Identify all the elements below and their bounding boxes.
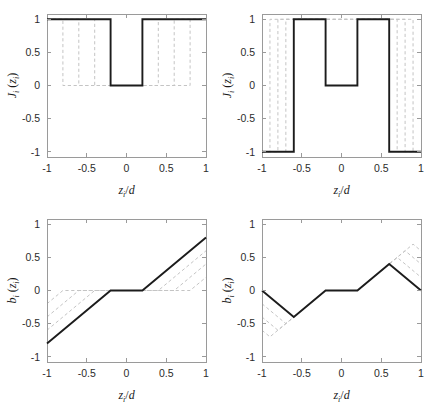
y-tick-label: -1 [31,351,40,363]
chart-panel-bottom-left: -1-0.500.51-1-0.500.51zi/dbi (zi) [2,205,215,409]
y-tick-label: 0.5 [240,251,255,263]
y-tick-label: 1 [249,218,255,230]
x-tick-label: 1 [203,162,209,174]
main-series [47,19,206,85]
axis-ticks: -1-0.500.51-1-0.500.51 [22,13,209,174]
y-tick-label: 1 [34,13,40,25]
chart-panel-top-left: -1-0.500.51-1-0.500.51zi/dJi (zi) [2,0,215,204]
x-tick-label: 1 [203,367,209,379]
axis-ticks: -1-0.500.51-1-0.500.51 [22,218,209,379]
x-tick-label: 0 [124,162,130,174]
x-tick-label: -0.5 [78,367,96,379]
main-curve [47,19,206,85]
axis-ticks: -1-0.500.51-1-0.500.51 [237,13,424,174]
y-axis-title: Ji (zi) [5,73,21,98]
x-tick-label: 1 [418,367,424,379]
main-series [262,264,421,317]
figure-canvas: -1-0.500.51-1-0.500.51zi/dJi (zi)-1-0.50… [0,0,430,409]
y-axis-title: Ji (zi) [220,73,236,98]
x-tick-label: 1 [418,162,424,174]
x-tick-label: 0.5 [374,367,389,379]
y-tick-label: -0.5 [237,317,255,329]
y-tick-label: -1 [246,351,255,363]
y-tick-label: 0.5 [25,46,40,58]
y-tick-label: -0.5 [237,112,255,124]
ghost-series [47,19,206,85]
ghost-curves [47,19,206,85]
x-tick-label: 0.5 [374,162,389,174]
x-tick-label: 0 [339,162,345,174]
ghost-series [47,19,206,85]
axis-ticks: -1-0.500.51-1-0.500.51 [237,218,424,379]
y-tick-label: -0.5 [22,112,40,124]
x-tick-label: 0.5 [159,367,174,379]
chart-panel-bottom-right: -1-0.500.51-1-0.500.51zi/dbi (zi) [217,205,430,409]
y-tick-label: 0 [249,79,255,91]
ghost-series [47,19,206,85]
x-tick-label: -0.5 [78,162,96,174]
main-curve [262,264,421,317]
y-tick-label: 0 [34,284,40,296]
y-tick-label: 0 [34,79,40,91]
x-tick-label: -1 [42,367,51,379]
x-tick-label: -1 [42,162,51,174]
x-tick-label: -0.5 [293,367,311,379]
x-axis-title: zi/d [332,388,350,404]
y-tick-label: -1 [246,146,255,158]
x-tick-label: -0.5 [293,162,311,174]
y-tick-label: 1 [249,13,255,25]
y-tick-label: 0.5 [240,46,255,58]
x-tick-label: 0 [124,367,130,379]
chart-panel-top-right: -1-0.500.51-1-0.500.51zi/dJi (zi) [217,0,430,204]
y-tick-label: 0 [249,284,255,296]
x-axis-title: zi/d [117,388,135,404]
y-tick-label: -0.5 [22,317,40,329]
y-tick-label: 0.5 [25,251,40,263]
x-tick-label: -1 [257,367,266,379]
y-tick-label: -1 [31,146,40,158]
x-tick-label: 0.5 [159,162,174,174]
y-axis-title: bi (zi) [220,277,236,303]
x-axis-title: zi/d [332,183,350,199]
x-axis-title: zi/d [117,183,135,199]
y-tick-label: 1 [34,218,40,230]
x-tick-label: 0 [339,367,345,379]
y-axis-title: bi (zi) [5,277,21,303]
x-tick-label: -1 [257,162,266,174]
